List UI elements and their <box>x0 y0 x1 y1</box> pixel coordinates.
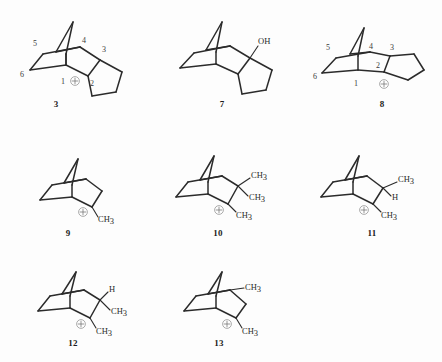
label-c6: 6 <box>313 72 317 81</box>
bond-c2-c1 <box>216 64 238 74</box>
bond-bridge-c4 <box>206 46 230 50</box>
bond-c6-c1 <box>176 194 208 197</box>
bond-c6-c1 <box>180 64 216 68</box>
label-methyl-2: CH3 <box>242 326 258 338</box>
bond-cp1-cp2 <box>414 54 424 70</box>
bond-c5-c6 <box>38 296 50 311</box>
bond-bridge-c4 <box>350 52 370 54</box>
caption-structure-12: 12 <box>62 338 84 348</box>
bond-c3-h <box>100 292 108 300</box>
label-c5: 5 <box>33 39 37 48</box>
bond-c6-c1 <box>321 194 353 197</box>
bond-c2-c1 <box>353 194 373 204</box>
bond-c3-c2 <box>90 300 100 318</box>
charge-plus-icon <box>380 80 389 89</box>
bond-c4-c3 <box>86 179 102 191</box>
bond-cp2-cp3 <box>242 90 266 94</box>
charge-plus-icon <box>215 206 224 215</box>
label-c1: 1 <box>354 79 358 88</box>
bond-c3-ch3-b <box>238 186 248 196</box>
bond-cp1-cp2 <box>116 72 122 92</box>
bond-c2-c1 <box>216 308 236 318</box>
bond-bridge-c4 <box>200 176 222 180</box>
bond-c3-c2 <box>384 56 390 72</box>
charge-plus-icon <box>71 77 80 86</box>
bond-c4-c3 <box>80 47 100 60</box>
label-methyl-1: CH3 <box>98 214 114 226</box>
bond-c4-c3 <box>370 52 390 56</box>
bond-c3-ch3 <box>100 300 110 310</box>
bond-c3-c2 <box>238 58 250 74</box>
label-hydroxyl: OH <box>258 36 270 46</box>
bond-c2-c1 <box>70 308 90 318</box>
bond-c6-c1 <box>30 65 66 70</box>
caption-structure-9: 9 <box>58 228 78 238</box>
structure-8: 5 6 1 2 3 4 <box>312 20 437 100</box>
bond-c4-c3 <box>222 176 238 186</box>
bond-c3-c2 <box>228 186 238 204</box>
caption-structure-3: 3 <box>46 99 66 109</box>
bond-c5-c6 <box>322 58 336 73</box>
label-hydrogen: H <box>392 192 398 202</box>
label-methyl-2: CH3 <box>249 192 265 204</box>
label-methyl-1: CH3 <box>398 174 414 186</box>
bond-c5-c6 <box>30 54 43 70</box>
caption-structure-8: 8 <box>372 99 392 109</box>
label-c6: 6 <box>20 70 24 79</box>
structure-13: CH3 CH3 <box>178 268 298 340</box>
label-hydrogen: H <box>109 284 115 294</box>
bond-c3-c2 <box>88 60 100 76</box>
structure-11: CH3 H CH3 <box>315 152 435 230</box>
charge-plus-icon <box>223 320 232 329</box>
bond-c3-c2 <box>92 191 102 207</box>
bond-c6-c1 <box>184 308 216 311</box>
charge-plus-icon <box>360 206 369 215</box>
structure-7: OH <box>172 16 292 102</box>
charge-plus-icon <box>77 320 86 329</box>
label-methyl-1: CH3 <box>251 170 267 182</box>
bond-c5-c6 <box>321 182 333 197</box>
bond-cp3-c2 <box>238 74 242 94</box>
bond-c3-c2 <box>373 188 383 204</box>
bond-c4-ch3 <box>230 288 244 290</box>
bond-cp2-cp3 <box>408 70 424 80</box>
bond-bridge-c4 <box>62 290 84 294</box>
structure-10: CH3 CH3 CH3 <box>170 152 290 230</box>
label-c4: 4 <box>82 36 86 45</box>
bond-c3-c2 <box>236 304 246 318</box>
bond-bridge-c4 <box>345 176 367 180</box>
bond-c6-c1 <box>322 70 358 73</box>
label-methyl-1: CH3 <box>111 306 127 318</box>
bond-c2-ch3 <box>228 204 236 212</box>
bond-c2-c1 <box>66 65 88 76</box>
bond-c4-c3 <box>230 46 250 58</box>
bond-c3-oh <box>250 46 258 58</box>
caption-structure-11: 11 <box>361 228 383 238</box>
bond-c4-c3 <box>230 290 246 304</box>
bond-c3-ch3-a <box>238 178 250 186</box>
bond-c2-ch3 <box>373 204 381 212</box>
label-c4: 4 <box>369 42 373 51</box>
label-methyl-2: CH3 <box>96 326 112 338</box>
structure-12: H CH3 CH3 <box>32 268 152 340</box>
bond-c6-c1 <box>38 308 70 311</box>
label-methyl-1: CH3 <box>245 282 261 294</box>
structure-3: 5 6 1 2 3 4 <box>18 14 148 106</box>
bond-c3-cp1 <box>100 60 122 72</box>
figure-sheet: 5 6 1 2 3 4 3 <box>0 0 442 362</box>
label-c1: 1 <box>61 77 65 86</box>
bond-cp3-c2 <box>384 72 408 80</box>
bond-c3-cp1 <box>250 58 272 70</box>
label-methyl-3: CH3 <box>236 210 252 222</box>
caption-structure-10: 10 <box>207 228 229 238</box>
label-c2: 2 <box>90 79 94 88</box>
bond-c5-c6 <box>184 296 196 311</box>
bond-c4-c3 <box>367 176 383 188</box>
bond-cp1-cp2 <box>266 70 272 90</box>
bond-cp2-cp3 <box>92 92 116 96</box>
bond-c5-c6 <box>40 185 52 200</box>
bond-c5-c6 <box>180 53 194 68</box>
label-c3: 3 <box>102 45 106 54</box>
bond-c6-c1 <box>40 197 72 200</box>
bond-c2-c1 <box>358 70 384 72</box>
